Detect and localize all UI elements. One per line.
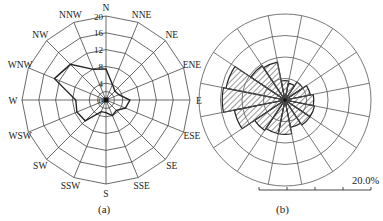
caption-a: (a): [98, 203, 110, 215]
radial-tick-label: 16: [94, 28, 104, 38]
direction-label: NNW: [59, 10, 82, 20]
radial-tick-label: 20: [94, 12, 104, 22]
direction-label: SSE: [133, 181, 150, 191]
grid-spoke: [106, 100, 165, 159]
direction-label: NNE: [132, 10, 152, 20]
wind-rose-canvas: NNNENEENEEESESESSESSSWSWWSWWWNWNWNNW0481…: [0, 0, 383, 221]
direction-label: W: [9, 96, 18, 106]
direction-label: SE: [166, 161, 177, 171]
center-marker: [283, 98, 287, 102]
direction-label: NW: [32, 30, 48, 40]
direction-label: S: [103, 189, 108, 199]
scale-bar-label: 20.0%: [352, 175, 379, 186]
wind-rose-b: [199, 14, 371, 190]
direction-label: N: [103, 3, 110, 13]
center-marker: [104, 98, 109, 103]
direction-label: WNW: [8, 60, 33, 70]
radial-tick-label: 8: [99, 62, 104, 72]
radial-tick-label: 0: [99, 96, 104, 106]
direction-label: SW: [33, 161, 47, 171]
direction-label: NE: [165, 30, 178, 40]
direction-label: SSW: [61, 181, 81, 191]
wind-rose-figure: NNNENEENEEESESESSESSSWSWWSWWWNWNWNNW0481…: [0, 0, 383, 221]
caption-b: (b): [276, 203, 289, 215]
radial-tick-label: 4: [99, 79, 104, 89]
wind-rose-a: NNNENEENEEESESESSESSSWSWWSWWWNWNWNNW0481…: [8, 3, 202, 199]
direction-label: WSW: [8, 131, 31, 141]
radial-tick-label: 12: [94, 45, 103, 55]
direction-label: ENE: [183, 60, 202, 70]
direction-label: ESE: [183, 131, 200, 141]
